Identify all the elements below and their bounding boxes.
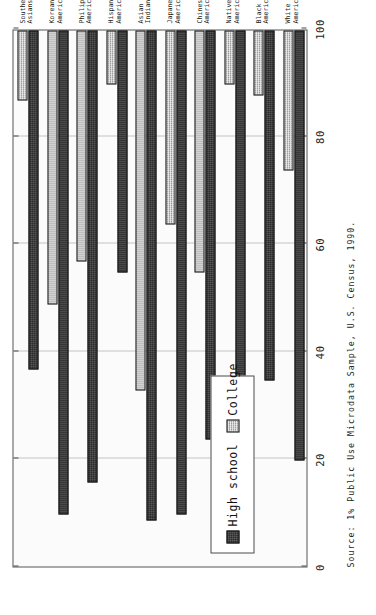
bar-college [76,30,86,261]
bar-high-school [176,30,186,514]
source-note: Source: 1% Public Use Microdata Sample, … [345,220,355,567]
category-label: Black Americans [255,3,270,23]
legend-item-college: College [225,363,239,433]
bar-college [17,30,27,100]
bar-college [165,30,175,224]
bar-high-school [58,30,68,514]
category-label: Native Americans [226,3,241,23]
category-label: Philippine Americans [78,3,93,23]
bar-college [253,30,263,95]
x-tick-label: 40 [313,345,325,359]
tick-mark [13,457,18,458]
bar-college [224,30,234,84]
legend-label-college: College [225,363,239,416]
rotated-figure: 020406080100 White AmericansBlack Americ… [0,0,376,615]
category-label: Hispanic Americans [108,3,123,23]
bar-college [283,30,293,170]
tick-mark [301,565,306,566]
x-tick-label: 80 [313,130,325,144]
tick-mark [13,565,18,566]
college-swatch-icon [226,419,239,432]
category-label: Korean Americans [49,3,64,23]
tick-mark [13,135,18,136]
category-label: Southeast Asians [19,3,34,23]
legend-label-high-school: High school [225,443,239,526]
bar-college [135,30,145,390]
x-tick-label: 100 [313,19,325,39]
chart-legend: High school College [210,375,254,553]
gridline [13,457,306,458]
tick-mark [13,350,18,351]
bar-high-school [235,30,245,385]
x-tick-label: 0 [313,564,325,571]
category-label: Chinese Americans [196,3,211,23]
bar-high-school [117,30,127,272]
bar-high-school [28,30,38,369]
bar-college [106,30,116,84]
tick-mark [301,27,306,28]
bar-high-school [264,30,274,380]
gridline [13,350,306,351]
x-tick-label: 60 [313,237,325,251]
plot-area [12,29,307,567]
bar-high-school [294,30,304,460]
tick-mark [13,27,18,28]
category-label: Asian Indians [137,3,152,23]
tick-mark [13,242,18,243]
category-label: Japanese Americans [167,3,182,23]
figure-body: 020406080100 White AmericansBlack Americ… [0,0,376,615]
bar-high-school [87,30,97,482]
legend-item-high-school: High school [225,443,239,543]
high-school-swatch-icon [226,530,239,543]
bar-high-school [146,30,156,520]
category-label: White Americans [285,3,300,23]
x-tick-label: 20 [313,453,325,467]
chart-canvas: 020406080100 White AmericansBlack Americ… [0,0,376,615]
bar-college [47,30,57,304]
bar-college [194,30,204,272]
